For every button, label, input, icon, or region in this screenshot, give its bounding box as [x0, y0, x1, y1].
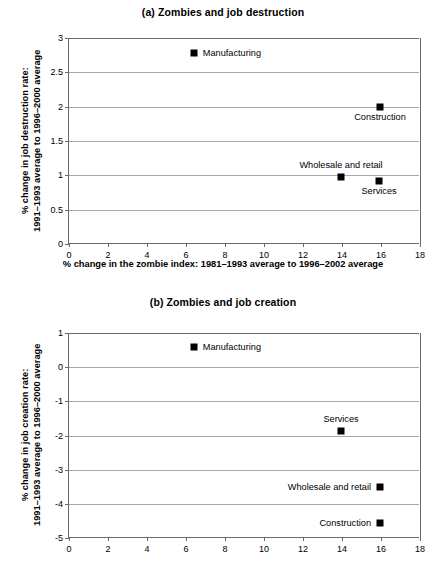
data-point-manufacturing: [190, 50, 197, 57]
gridline-y: [69, 141, 419, 142]
y-axis-tick: [65, 333, 69, 334]
panel-b-plot-area: -5-4-3-2-101024681012141618Manufacturing…: [68, 333, 419, 538]
x-axis-tick-label: 16: [376, 544, 386, 554]
panel-b-job-creation: (b) Zombies and job creation % change in…: [0, 290, 446, 575]
x-axis-tick-label: 2: [105, 544, 110, 554]
x-axis-tick: [303, 537, 304, 541]
x-axis-tick: [69, 243, 70, 247]
x-axis-tick: [264, 537, 265, 541]
x-axis-tick-label: 14: [337, 544, 347, 554]
x-axis-tick: [108, 243, 109, 247]
x-axis-tick: [264, 243, 265, 247]
gridline-y: [69, 38, 419, 39]
y-axis-tick: [65, 504, 69, 505]
gridline-y: [69, 107, 419, 108]
x-axis-tick: [147, 243, 148, 247]
x-axis-tick: [225, 537, 226, 541]
x-axis-tick: [186, 537, 187, 541]
gridline-y: [69, 175, 419, 176]
x-axis-tick-label: 12: [298, 544, 308, 554]
panel-a-y-axis-title: % change in job destruction rate: 1991–1…: [20, 36, 43, 246]
gridline-y: [69, 333, 419, 334]
y-axis-tick-label: -5: [55, 533, 63, 543]
x-axis-tick-label: 0: [66, 544, 71, 554]
gridline-y: [69, 470, 419, 471]
x-axis-tick-label: 8: [222, 544, 227, 554]
x-axis-tick: [381, 537, 382, 541]
gridline-y: [69, 367, 419, 368]
data-point-construction: [377, 104, 384, 111]
x-axis-tick: [420, 537, 421, 541]
panel-a-plot-area: 00.511.522.53024681012141618Manufacturin…: [68, 38, 419, 244]
y-axis-tick: [65, 210, 69, 211]
panel-a-job-destruction: (a) Zombies and job destruction % change…: [0, 0, 446, 290]
x-axis-tick: [420, 243, 421, 247]
y-axis-tick-label: 1.5: [50, 136, 63, 146]
y-axis-tick: [65, 436, 69, 437]
y-axis-tick-label: 1: [58, 328, 63, 338]
data-point-label-wholesale-and-retail: Wholesale and retail: [299, 160, 382, 170]
x-axis-tick: [303, 243, 304, 247]
y-axis-tick: [65, 38, 69, 39]
y-axis-tick-label: -3: [55, 465, 63, 475]
plot-right-frame: [420, 38, 421, 244]
x-axis-tick-label: 6: [183, 544, 188, 554]
panel-b-y-axis-title: % change in job creation rate: 1991–1993…: [20, 330, 43, 540]
data-point-label-construction: Construction: [354, 112, 406, 122]
y-axis-tick-label: 0.5: [50, 205, 63, 215]
y-axis-tick: [65, 470, 69, 471]
data-point-construction: [377, 519, 384, 526]
x-axis-tick: [69, 537, 70, 541]
x-axis-tick-label: 10: [259, 544, 269, 554]
x-axis-tick: [381, 243, 382, 247]
data-point-label-services: Services: [361, 186, 396, 196]
figure-zombies-jobs: (a) Zombies and job destruction % change…: [0, 0, 446, 575]
y-axis-tick-label: 0: [58, 239, 63, 249]
panel-a-title: (a) Zombies and job destruction: [0, 6, 446, 18]
y-axis-tick: [65, 72, 69, 73]
y-axis-tick: [65, 367, 69, 368]
y-axis-tick: [65, 141, 69, 142]
x-axis-tick: [342, 537, 343, 541]
x-axis-tick: [147, 537, 148, 541]
x-axis-tick: [342, 243, 343, 247]
data-point-wholesale-and-retail: [338, 174, 345, 181]
x-axis-tick: [225, 243, 226, 247]
y-axis-tick-label: 0: [58, 362, 63, 372]
gridline-y: [69, 504, 419, 505]
data-point-manufacturing: [190, 344, 197, 351]
x-axis-tick-label: 18: [415, 544, 425, 554]
data-point-label-manufacturing: Manufacturing: [203, 342, 261, 352]
y-axis-tick-label: 2.5: [50, 67, 63, 77]
y-axis-tick-label: -2: [55, 431, 63, 441]
y-axis-tick: [65, 401, 69, 402]
y-axis-tick-label: 1: [58, 170, 63, 180]
y-axis-tick-label: -4: [55, 499, 63, 509]
y-axis-tick: [65, 175, 69, 176]
panel-a-x-axis-title: % change in the zombie index: 1981–1993 …: [0, 259, 446, 269]
x-axis-tick: [186, 243, 187, 247]
data-point-wholesale-and-retail: [377, 483, 384, 490]
plot-right-frame: [420, 333, 421, 538]
data-point-label-construction: Construction: [319, 518, 371, 528]
gridline-y: [69, 436, 419, 437]
data-point-label-services: Services: [323, 414, 358, 424]
data-point-label-wholesale-and-retail: Wholesale and retail: [288, 482, 371, 492]
data-point-label-manufacturing: Manufacturing: [203, 48, 261, 58]
data-point-services: [338, 428, 345, 435]
gridline-y: [69, 72, 419, 73]
y-axis-tick-label: -1: [55, 396, 63, 406]
panel-b-title: (b) Zombies and job creation: [0, 296, 446, 308]
x-axis-tick-label: 4: [144, 544, 149, 554]
x-axis-tick: [108, 537, 109, 541]
gridline-y: [69, 210, 419, 211]
data-point-services: [376, 177, 383, 184]
gridline-y: [69, 401, 419, 402]
y-axis-tick-label: 2: [58, 102, 63, 112]
y-axis-tick-label: 3: [58, 33, 63, 43]
y-axis-tick: [65, 107, 69, 108]
